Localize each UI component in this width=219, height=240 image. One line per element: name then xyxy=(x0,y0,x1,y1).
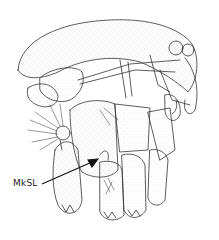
annotation-label-mksl: MkSL xyxy=(13,178,38,188)
eye-lobe xyxy=(169,41,183,55)
leg-segment xyxy=(115,104,150,152)
eye-lobe xyxy=(182,44,194,56)
specimen-illustration xyxy=(0,0,219,240)
